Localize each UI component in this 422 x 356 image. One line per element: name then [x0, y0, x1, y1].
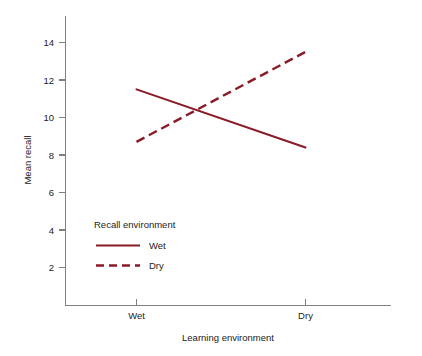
y-tick-label-8: 8 [49, 150, 54, 161]
y-tick-label-12: 12 [43, 75, 54, 86]
legend-title: Recall environment [94, 219, 176, 230]
y-tick-label-14: 14 [43, 37, 54, 48]
y-tick-label-6: 6 [49, 187, 54, 198]
x-tick-label-wet: Wet [128, 310, 145, 321]
y-tick-label-10: 10 [43, 112, 54, 123]
y-axis-title: Mean recall [22, 135, 33, 184]
x-tick-label-dry: Dry [298, 310, 313, 321]
y-tick-label-2: 2 [49, 262, 54, 273]
y-tick-label-4: 4 [49, 225, 54, 236]
series-line-dry [137, 52, 306, 142]
line-chart: 14 12 10 8 6 4 2 Wet Dry Mean recall Lea… [0, 0, 422, 356]
legend-label-wet: Wet [149, 240, 166, 251]
chart-figure: 14 12 10 8 6 4 2 Wet Dry Mean recall Lea… [0, 0, 422, 356]
series-line-wet [137, 89, 306, 147]
legend-label-dry: Dry [149, 260, 164, 271]
x-axis-title: Learning environment [182, 332, 274, 343]
